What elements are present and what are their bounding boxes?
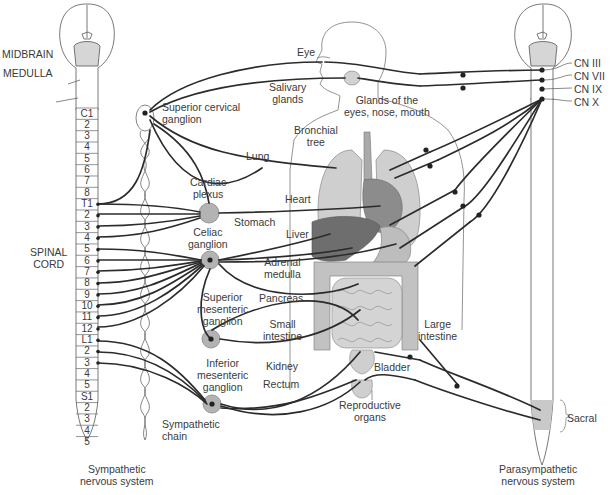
spinal-segment-label: 6	[76, 164, 98, 176]
bronchial-tree-label: Bronchial tree	[294, 124, 338, 148]
spinal-segment-label: 12	[76, 323, 98, 335]
spinal-segment-label: 8	[76, 277, 98, 289]
trachea-icon	[364, 132, 372, 180]
medulla-label: MEDULLA	[3, 67, 53, 79]
small-intestine-label: Small intestine	[263, 318, 302, 342]
spinal-segment-label: 3	[76, 413, 98, 425]
sympathetic-nervous-system-caption: Sympathetic nervous system	[80, 463, 154, 487]
glands-eyes-nose-mouth-label: Glands of the eyes, nose, mouth	[344, 94, 430, 118]
cn-vii-label: CN VII	[574, 70, 605, 82]
sacral-region	[531, 400, 553, 430]
spinal-segment-label: 5	[76, 153, 98, 165]
spinal-segment-label: 2	[76, 209, 98, 221]
bladder-label: Bladder	[374, 361, 410, 373]
kidney-label: Kidney	[266, 360, 298, 372]
sacral-label: Sacral	[567, 412, 597, 424]
spinal-segment-label: 4	[76, 232, 98, 244]
stomach-label: Stomach	[234, 216, 275, 228]
spinal-segment-label: S1	[76, 391, 98, 403]
lung-label: Lung	[246, 150, 269, 162]
eye-label: Eye	[297, 46, 315, 58]
spinal-segment-label: 7	[76, 266, 98, 278]
left-brain-icon	[60, 4, 115, 110]
cardiac-plexus-label: Cardiac plexus	[190, 176, 226, 200]
spinal-segment-label: T1	[76, 198, 98, 210]
large-intestine-label: Large intestine	[418, 318, 457, 342]
parasympathetic-nervous-system-caption: Parasympathetic nervous system	[499, 463, 577, 487]
spinal-segment-label: 2	[76, 402, 98, 414]
cn-iii-label: CN III	[574, 57, 601, 69]
rectum-label: Rectum	[263, 378, 299, 390]
adrenal-medulla-label: Adrenal medulla	[264, 256, 301, 280]
cn-x-label: CN X	[574, 96, 599, 108]
spinal-segment-label: 4	[76, 425, 98, 437]
liver-label: Liver	[286, 228, 309, 240]
bladder-icon	[350, 350, 375, 374]
inferior-mesenteric-ganglion-label: Inferior mesenteric ganglion	[197, 357, 248, 393]
cn-ix-label: CN IX	[574, 83, 602, 95]
spinal-segment-label: 11	[76, 311, 98, 323]
spinal-segment-label: 2	[76, 345, 98, 357]
right-brain-icon	[515, 4, 572, 100]
spinal-segment-label: L1	[76, 334, 98, 346]
sympathetic-chain-label: Sympathetic chain	[162, 418, 220, 442]
spinal-segment-label: 2	[76, 119, 98, 131]
spinal-segment-label: 6	[76, 255, 98, 267]
spinal-segment-label: 3	[76, 357, 98, 369]
superior-cervical-ganglion-dot	[142, 110, 147, 115]
spinal-segment-label: 3	[76, 130, 98, 142]
spinal-segment-label: C1	[76, 108, 98, 120]
salivary-glands-label: Salivary glands	[269, 81, 306, 105]
spinal-segment-label: 5	[76, 436, 98, 448]
reproductive-organs-label: Reproductive organs	[339, 399, 401, 423]
reproductive-organs-icon	[352, 380, 373, 398]
spinal-segment-label: 9	[76, 289, 98, 301]
celiac-ganglion-label: Celiac ganglion	[188, 226, 228, 250]
nerve-dots	[207, 67, 544, 406]
autonomic-nervous-system-diagram: MIDBRAIN MEDULLA SPINAL CORD C12345678T1…	[0, 0, 614, 495]
superior-mesenteric-ganglion-label: Superior mesenteric ganglion	[197, 291, 248, 327]
spinal-segment-label: 10	[76, 300, 98, 312]
spinal-segment-label: 5	[76, 379, 98, 391]
spinal-segment-label: 4	[76, 141, 98, 153]
pancreas-label: Pancreas	[259, 292, 303, 304]
heart-label: Heart	[285, 193, 311, 205]
spinal-segment-label: 7	[76, 175, 98, 187]
spinal-segment-label: 4	[76, 368, 98, 380]
spinal-cord-label: SPINAL CORD	[30, 246, 67, 270]
spinal-segment-label: 5	[76, 243, 98, 255]
midbrain-label: MIDBRAIN	[2, 48, 53, 60]
spinal-segment-label: 8	[76, 187, 98, 199]
superior-cervical-ganglion-label: Superior cervical ganglion	[162, 101, 240, 125]
spinal-segment-label: 3	[76, 221, 98, 233]
